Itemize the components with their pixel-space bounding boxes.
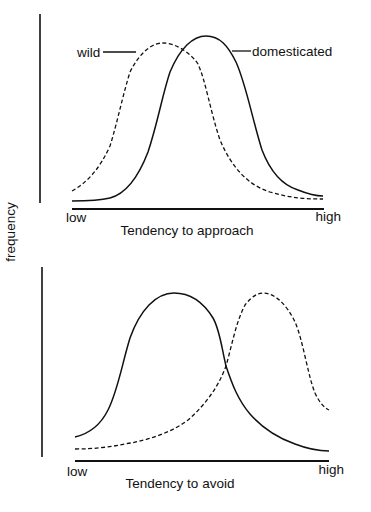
top-wild-label: wild: [76, 45, 100, 60]
bottom-domesticated-curve: [75, 293, 329, 451]
figure: frequency wild domesticated low high Ten…: [0, 0, 371, 512]
top-x-high-label: high: [315, 209, 341, 224]
y-axis-label: frequency: [3, 202, 18, 262]
top-wild-curve: [72, 43, 323, 199]
bottom-x-high-label: high: [318, 462, 344, 477]
bottom-panel: low high Tendency to avoid: [42, 267, 344, 491]
top-domesticated-label: domesticated: [252, 44, 332, 59]
bottom-wild-curve: [75, 293, 329, 449]
top-domesticated-curve: [72, 36, 323, 201]
bottom-x-low-label: low: [67, 464, 88, 479]
top-x-axis-title: Tendency to approach: [121, 223, 254, 238]
top-panel: wild domesticated low high Tendency to a…: [40, 14, 341, 238]
bottom-x-axis-title: Tendency to avoid: [126, 476, 235, 491]
top-x-low-label: low: [66, 210, 87, 225]
